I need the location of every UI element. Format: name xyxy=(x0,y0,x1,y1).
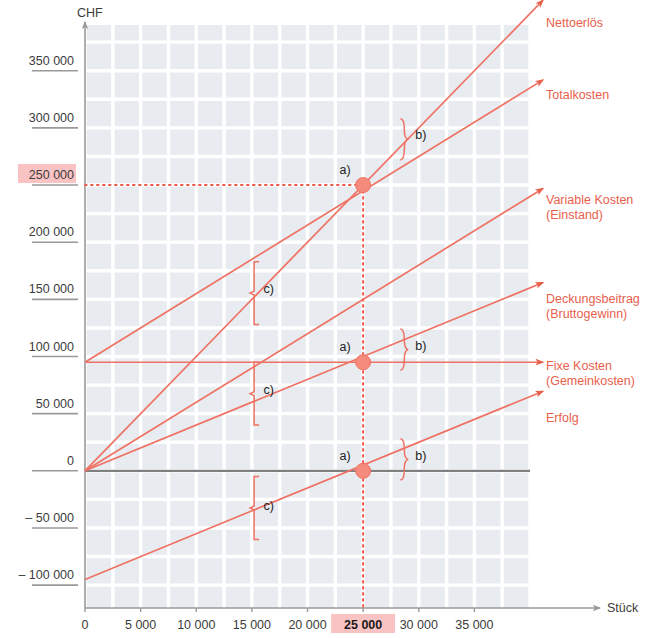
series-label-sub: (Gemeinkosten) xyxy=(546,374,635,388)
series-label: Erfolg xyxy=(546,411,579,425)
x-tick-label: 10 000 xyxy=(177,618,215,632)
y-tick-rules: 350 000300 000250 000200 000150 000100 0… xyxy=(18,54,78,585)
annotation-label: c) xyxy=(263,282,273,296)
annotation-label: a) xyxy=(340,449,351,463)
y-tick-label: – 100 000 xyxy=(18,568,74,582)
x-tick-label: 25 000 xyxy=(344,618,382,632)
y-tick-label: 150 000 xyxy=(29,282,74,296)
series-label: Deckungsbeitrag xyxy=(546,292,640,306)
annotation-label: a) xyxy=(340,340,351,354)
x-axis-title: Stück xyxy=(607,601,639,615)
breakeven-marker[interactable] xyxy=(356,463,371,478)
annotation-label: c) xyxy=(263,499,273,513)
break-even-chart: 350 000300 000250 000200 000150 000100 0… xyxy=(0,0,646,638)
x-tick-label: 30 000 xyxy=(400,618,438,632)
x-tick-label: 20 000 xyxy=(288,618,326,632)
y-tick-label: 300 000 xyxy=(29,111,74,125)
chart-canvas: 350 000300 000250 000200 000150 000100 0… xyxy=(0,0,646,638)
annotation-label: b) xyxy=(415,449,426,463)
series-label-sub: (Einstand) xyxy=(546,208,603,222)
series-label: Fixe Kosten xyxy=(546,359,612,373)
x-tick-label: 15 000 xyxy=(233,618,271,632)
series-label: Variable Kosten xyxy=(546,193,633,207)
series-label-sub: (Bruttogewinn) xyxy=(546,307,627,321)
y-tick-label: 0 xyxy=(67,454,74,468)
breakeven-marker[interactable] xyxy=(356,355,371,370)
x-tick-label: 0 xyxy=(82,618,89,632)
series-label: Totalkosten xyxy=(546,88,609,102)
y-tick-label: 350 000 xyxy=(29,54,74,68)
annotation-label: a) xyxy=(340,163,351,177)
series-labels: NettoerlösTotalkostenVariable Kosten(Ein… xyxy=(546,16,640,425)
x-tick-label: 35 000 xyxy=(455,618,493,632)
annotation-label: b) xyxy=(415,339,426,353)
series-label: Nettoerlös xyxy=(546,16,603,30)
y-axis-title: CHF xyxy=(77,6,103,20)
annotation-label: c) xyxy=(263,383,273,397)
annotation-label: b) xyxy=(415,128,426,142)
y-tick-label: 200 000 xyxy=(29,225,74,239)
x-tick-labels: 05 00010 00015 00020 00025 00030 00035 0… xyxy=(82,608,494,632)
y-tick-label: – 50 000 xyxy=(25,511,74,525)
y-tick-label: 250 000 xyxy=(29,168,74,182)
y-tick-label: 100 000 xyxy=(29,340,74,354)
y-tick-label: 50 000 xyxy=(36,397,74,411)
breakeven-marker[interactable] xyxy=(356,178,371,193)
x-tick-label: 5 000 xyxy=(125,618,156,632)
